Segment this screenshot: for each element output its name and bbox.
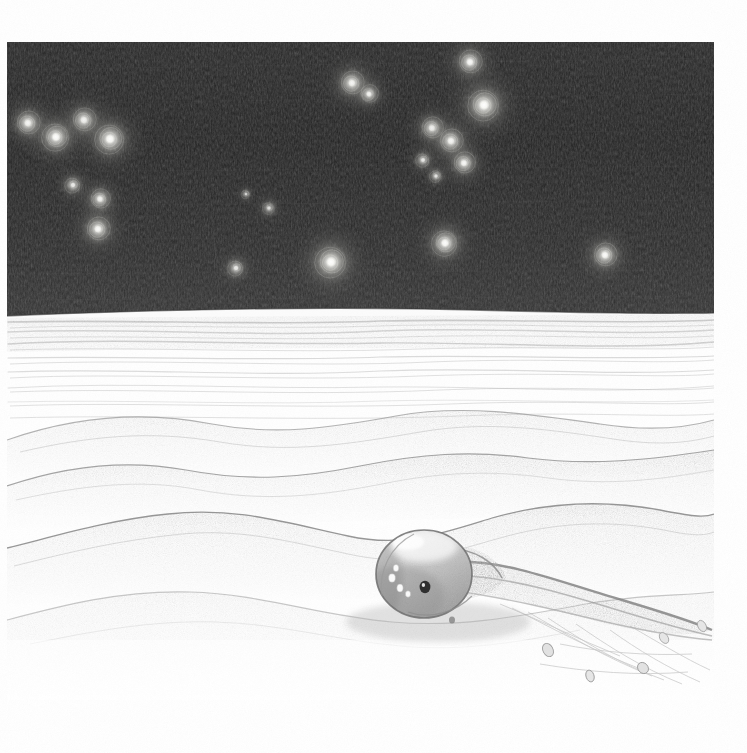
global-grain-overlay <box>0 0 747 753</box>
pencil-drawing-canvas <box>0 0 747 753</box>
artwork-frame: Night Sky over Snowfield with Tadpole gr… <box>0 0 747 753</box>
